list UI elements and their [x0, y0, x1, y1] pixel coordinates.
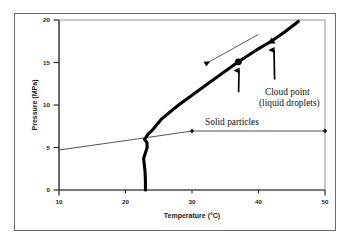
x-tick-label-30: 30	[189, 198, 196, 205]
x-tick-label-50: 50	[322, 198, 329, 205]
series-solid-particles	[59, 128, 327, 150]
x-tick-label-40: 40	[255, 198, 262, 205]
y-tick-label-5: 5	[47, 144, 51, 151]
y-tick-label-10: 10	[43, 101, 50, 108]
arrow-to-cloud-point-triangle	[274, 50, 275, 80]
y-axis-title: Pressure (MPa)	[31, 80, 39, 131]
x-axis-ticks	[59, 190, 325, 196]
annotation-cloud-point-line2: (liquid droplets)	[259, 98, 320, 109]
x-tick-label-20: 20	[122, 198, 129, 205]
data-point-cloud-point-37c	[235, 58, 242, 65]
y-tick-label-20: 20	[43, 16, 50, 23]
y-tick-label-0: 0	[47, 186, 51, 193]
y-tick-label-15: 15	[43, 59, 50, 66]
figure-canvas: 20 15 10 5 0 10 20 30 40 50 Temperature …	[0, 0, 348, 246]
y-axis-ticks	[54, 20, 60, 190]
annotation-cloud-point-line1: Cloud point	[265, 87, 310, 97]
annotation-arrows	[210, 35, 275, 93]
annotation-solid-particles: Solid particles	[205, 117, 259, 127]
x-tick-label-10: 10	[56, 198, 63, 205]
chart-plot: 20 15 10 5 0 10 20 30 40 50 Temperature …	[0, 0, 348, 246]
x-axis-title: Temperature (°C)	[164, 212, 220, 220]
thin-diagonal-arrow	[210, 35, 259, 62]
